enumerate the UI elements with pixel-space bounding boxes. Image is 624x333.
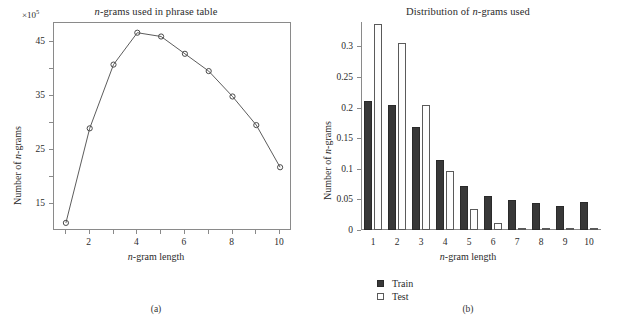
panel-a-plot-area <box>53 22 291 230</box>
y-tick-label: 0.1 <box>325 164 353 174</box>
y-tick-label: 45 <box>19 36 45 46</box>
bar-train-9 <box>556 206 565 230</box>
panel-b-title: Distribution of n-grams used <box>312 6 624 17</box>
bar-test-8 <box>542 228 551 230</box>
legend-swatch-test-icon <box>377 293 384 300</box>
x-tick <box>208 230 209 234</box>
y-tick <box>49 176 53 177</box>
bar-test-3 <box>422 105 431 230</box>
bar-test-6 <box>494 223 503 230</box>
panel-b-plot-area <box>361 22 601 230</box>
x-tick-label: 8 <box>539 237 544 247</box>
x-tick-label: 5 <box>467 237 472 247</box>
bar-train-10 <box>580 202 589 230</box>
panel-a-y-exponent-text: ×105 <box>22 10 39 20</box>
y-tick-label: 0.05 <box>325 194 353 204</box>
y-tick <box>49 68 53 69</box>
y-tick <box>49 95 53 96</box>
y-tick-label: 0 <box>325 225 353 235</box>
x-tick-label: 3 <box>419 237 424 247</box>
y-tick <box>49 41 53 42</box>
bar-train-3 <box>412 127 421 230</box>
x-tick <box>184 230 185 234</box>
bar-train-2 <box>388 105 397 230</box>
y-tick-label: 0.2 <box>325 103 353 113</box>
x-tick <box>136 230 137 234</box>
panel-b-xlabel-text: n-gram length <box>440 251 496 262</box>
x-tick <box>279 230 280 234</box>
legend-item-test[interactable]: Test <box>377 290 413 303</box>
panel-a-title: n-grams used in phrase table <box>0 6 312 17</box>
legend-label: Train <box>392 277 413 290</box>
bar-train-6 <box>484 196 493 230</box>
x-tick-label: 4 <box>443 237 448 247</box>
bar-train-1 <box>364 101 373 230</box>
y-tick-label: 15 <box>19 198 45 208</box>
panel-a-title-text: n-grams used in phrase table <box>95 6 218 17</box>
panel-a-line-chart: n-grams used in phrase table ×105 Number… <box>0 0 312 333</box>
y-tick <box>357 108 361 109</box>
bar-train-7 <box>508 200 517 230</box>
bar-train-8 <box>532 203 541 230</box>
x-tick <box>232 230 233 234</box>
x-tick <box>255 230 256 234</box>
y-tick <box>49 122 53 123</box>
legend-swatch-train-icon <box>377 280 384 287</box>
panel-b-title-text: Distribution of n-grams used <box>406 6 530 17</box>
panel-b-legend: TrainTest <box>377 277 413 303</box>
x-tick-label: 8 <box>229 237 234 247</box>
panel-a-data-layer <box>54 23 292 231</box>
panel-b-bar-chart: Distribution of n-grams used Number of n… <box>312 0 624 333</box>
y-tick <box>357 77 361 78</box>
x-tick-label: 6 <box>491 237 496 247</box>
y-tick-label: 0.15 <box>325 133 353 143</box>
bar-test-2 <box>398 43 407 230</box>
panel-a-xlabel-text: n-gram length <box>128 251 184 262</box>
x-tick-label: 7 <box>515 237 520 247</box>
y-tick <box>357 169 361 170</box>
panel-a-y-axis-title: Number of n-grams <box>12 126 23 205</box>
bar-test-4 <box>446 171 455 230</box>
x-tick <box>160 230 161 234</box>
panel-a-caption: (a) <box>0 304 312 314</box>
bar-test-9 <box>566 228 575 230</box>
figure-container: n-grams used in phrase table ×105 Number… <box>0 0 624 333</box>
x-tick <box>65 230 66 234</box>
legend-item-train[interactable]: Train <box>377 277 413 290</box>
y-tick <box>49 203 53 204</box>
x-tick-label: 4 <box>134 237 139 247</box>
x-tick-label: 1 <box>371 237 376 247</box>
y-tick <box>49 149 53 150</box>
panel-a-y-exponent: ×105 <box>22 8 39 20</box>
y-tick-label: 35 <box>19 90 45 100</box>
x-tick-label: 10 <box>274 237 284 247</box>
y-tick <box>357 199 361 200</box>
legend-label: Test <box>392 290 409 303</box>
bar-test-5 <box>470 209 479 230</box>
x-tick-label: 10 <box>584 237 594 247</box>
y-tick-label: 0.3 <box>325 41 353 51</box>
panel-b-caption: (b) <box>312 304 624 314</box>
bar-train-4 <box>436 160 445 230</box>
bar-test-1 <box>374 24 383 230</box>
y-tick <box>357 46 361 47</box>
y-tick <box>357 138 361 139</box>
x-tick-label: 2 <box>395 237 400 247</box>
x-tick <box>113 230 114 234</box>
x-tick <box>89 230 90 234</box>
y-tick-label: 0.25 <box>325 72 353 82</box>
bar-test-7 <box>518 228 527 230</box>
x-tick-label: 2 <box>86 237 91 247</box>
panel-b-y-axis-line <box>361 22 362 230</box>
bar-test-10 <box>590 228 599 230</box>
bar-train-5 <box>460 186 469 230</box>
x-tick-label: 6 <box>182 237 187 247</box>
panel-a-x-axis-title: n-gram length <box>0 251 312 262</box>
panel-b-x-axis-title: n-gram length <box>312 251 624 262</box>
y-tick-label: 25 <box>19 144 45 154</box>
y-tick <box>357 230 361 231</box>
panel-a-ylabel-text: Number of n-grams <box>12 126 23 205</box>
x-tick-label: 9 <box>563 237 568 247</box>
panel-a-data-line <box>66 33 280 223</box>
